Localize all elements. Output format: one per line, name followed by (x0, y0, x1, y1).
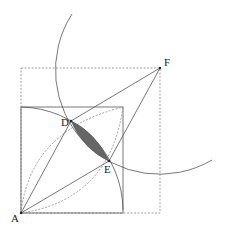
segment-AD (21, 121, 71, 213)
geometry-diagram: A D E F (0, 0, 227, 232)
label-A: A (11, 212, 19, 224)
label-F: F (164, 56, 170, 68)
shaded-lens (71, 121, 109, 161)
point-E (108, 160, 110, 162)
label-D: D (61, 116, 69, 128)
segment-EF (109, 68, 160, 161)
point-F (159, 67, 161, 69)
point-D (70, 120, 72, 122)
arc-centered-F (55, 14, 212, 174)
segment-DF (71, 68, 160, 121)
label-E: E (104, 163, 111, 175)
point-A (20, 212, 22, 214)
